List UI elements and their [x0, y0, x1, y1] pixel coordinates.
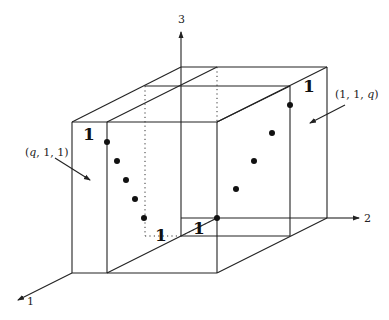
corner-label-front-left: 1	[83, 124, 95, 144]
right-annotation-label: (1, 1, q)	[335, 88, 379, 101]
axis-2-label: 2	[364, 212, 371, 225]
right-point-series	[214, 102, 293, 221]
corner-label-back-right: 1	[303, 76, 315, 96]
outer-box	[72, 67, 327, 273]
left-point-series	[104, 139, 147, 221]
corner-label-bottom-front: 1	[155, 225, 167, 245]
axis-1-label: 1	[27, 295, 34, 308]
corner-label-bottom-back: 1	[193, 218, 205, 238]
left-annotation-label: (q, 1, 1)	[25, 146, 69, 159]
cube-diagram: 3 2 1 1 1 1 1 (q, 1, 1) (1, 1, q)	[0, 0, 389, 320]
axis-3-label: 3	[178, 13, 185, 26]
